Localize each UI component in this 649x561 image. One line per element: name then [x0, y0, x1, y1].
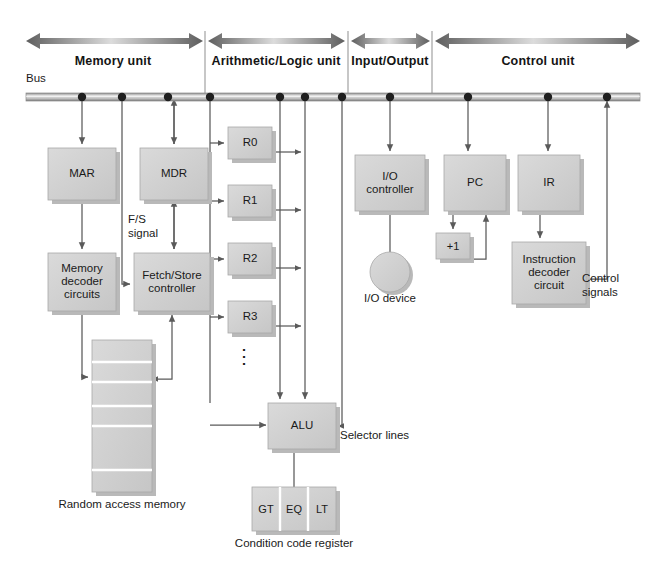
mdr-label: MDR: [161, 167, 187, 180]
bus-connection-dot-2: [164, 93, 172, 101]
bus-connection-dot-10: [603, 93, 611, 101]
ram-caption: Random access memory: [58, 498, 185, 512]
unit-label-arithmetic-logic-unit: Arithmetic/Logic unit: [211, 54, 340, 68]
bus-connection-dot-6: [338, 93, 346, 101]
bus-connection-dot-0: [78, 93, 86, 101]
unit-header-arrows: [26, 33, 640, 49]
condition-code-cell-eq: EQ: [286, 503, 302, 515]
line-bus-to-fetch-store-fs: [122, 97, 130, 284]
computer-architecture-diagram: Memory unitArithmetic/Logic unitInput/Ou…: [0, 0, 649, 561]
mar-label: MAR: [69, 167, 95, 180]
line-selector-path: [340, 97, 342, 426]
condition-code-caption: Condition code register: [235, 537, 353, 551]
ir-label: IR: [543, 176, 555, 189]
unit-label-input-output: Input/Output: [351, 54, 428, 68]
bus-connection-dot-8: [464, 93, 472, 101]
unit-arrow-input-output: [351, 33, 430, 49]
io-controller-label: I/O controller: [366, 170, 413, 196]
register-r2-label: R2: [243, 252, 258, 265]
bus-connection-dot-7: [386, 93, 394, 101]
io-device-shape: [370, 252, 413, 295]
alu-label: ALU: [291, 419, 313, 432]
bus-connection-dot-1: [118, 93, 126, 101]
register-r3-label: R3: [243, 310, 258, 323]
memory-decoder-label: Memory decoder circuits: [61, 262, 103, 302]
fetch-store-label: Fetch/Store controller: [142, 269, 201, 295]
pc-label: PC: [467, 176, 483, 189]
line-ram-to-fetch-store: [156, 315, 172, 379]
plus-one-label: +1: [447, 240, 460, 252]
selector-lines-label: Selector lines: [340, 429, 409, 443]
register-r1-label: R1: [243, 194, 258, 207]
bus-connection-dot-9: [544, 93, 552, 101]
register-r0-label: R0: [243, 136, 258, 149]
bus-connection-dot-5: [301, 93, 309, 101]
random-access-memory: [92, 340, 156, 496]
bus-connection-dot-3: [206, 93, 214, 101]
unit-label-control-unit: Control unit: [501, 54, 574, 68]
fs-signal-label: F/S signal: [128, 213, 158, 240]
instruction-decoder-label: Instruction decoder circuit: [522, 253, 575, 293]
bus-label: Bus: [26, 72, 46, 86]
unit-arrow-arithmetic-logic-unit: [208, 33, 345, 49]
control-signals-label: Control signals: [582, 272, 619, 299]
bus-connection-dot-4: [276, 93, 284, 101]
condition-code-cell-gt: GT: [258, 503, 273, 515]
unit-arrow-control-unit: [435, 33, 640, 49]
line-decoder-to-ram: [82, 311, 88, 377]
unit-arrow-memory-unit: [26, 33, 203, 49]
condition-code-cell-lt: LT: [316, 503, 328, 515]
registers-ellipsis: ⋮: [234, 346, 254, 366]
unit-label-memory-unit: Memory unit: [75, 54, 152, 68]
io-device-label: I/O device: [364, 292, 416, 306]
